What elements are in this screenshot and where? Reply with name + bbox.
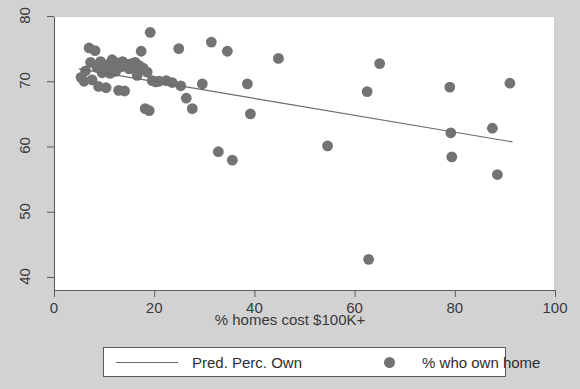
x-axis-title: % homes cost $100K+: [0, 311, 580, 328]
y-tick-marks: [47, 17, 54, 278]
y-tick-label: 60: [16, 129, 33, 163]
axes-lines: [0, 0, 580, 389]
legend-label-observed: % who own home: [422, 354, 540, 371]
legend-entry-predicted: Pred. Perc. Own: [104, 348, 302, 376]
x-tick-marks: [55, 290, 556, 297]
scatter-plot-figure: 4050607080 020406080100 % homes cost $10…: [0, 0, 580, 389]
y-tick-label: 70: [16, 64, 33, 98]
legend-label-predicted: Pred. Perc. Own: [192, 354, 302, 371]
chart-legend: Pred. Perc. Own % who own home: [103, 347, 506, 377]
y-tick-label: 80: [16, 0, 33, 33]
legend-line-icon: [116, 356, 178, 368]
y-tick-label: 50: [16, 194, 33, 228]
y-tick-label: 40: [16, 259, 33, 293]
legend-dot-icon: [374, 357, 404, 368]
legend-entry-observed: % who own home: [374, 348, 540, 376]
